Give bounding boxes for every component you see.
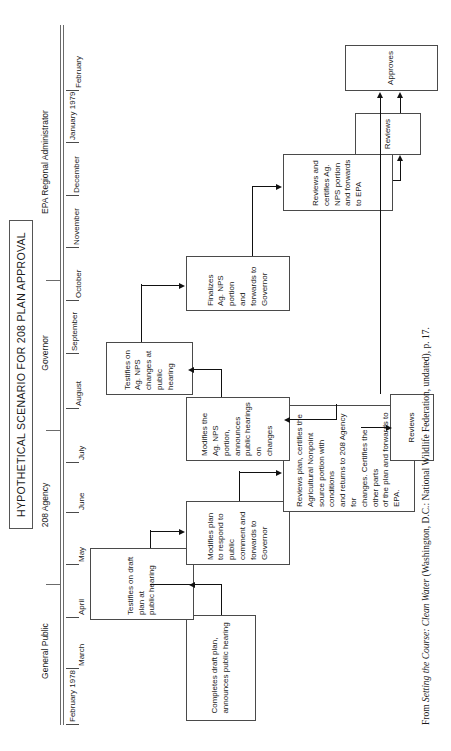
figure-title-text: HYPOTHETICAL SCENARIO FOR 208 PLAN APPRO… xyxy=(15,232,27,517)
node-modifies-plan-label: Modifies plan to respond to public comme… xyxy=(206,506,271,560)
node-modifies-ag-nps-label: Modifies the Ag. NPS portion, announces … xyxy=(200,402,276,456)
flow-modifies-to-governor-riser xyxy=(239,472,277,473)
month-label-may: May xyxy=(77,547,86,562)
source-citation: From Setting the Course: Clean Water (Wa… xyxy=(421,25,431,725)
node-testifies-ag-nps: Testifies on Ag. NPS changes at public h… xyxy=(106,342,193,395)
month-label-aug: August xyxy=(74,381,83,406)
flow-finalizes-to-gov2-riser xyxy=(252,186,278,187)
month-tick-feb-1978 xyxy=(66,724,79,725)
node-modifies-plan: Modifies plan to respond to public comme… xyxy=(186,501,290,565)
flow-modifiesag-to-testifiesag-arrow xyxy=(188,367,194,373)
flow-testifiesag-to-finalizes-riser xyxy=(141,285,181,286)
flow-epa2-to-approves-arrow xyxy=(397,92,403,98)
flow-testifies-to-modifies-arrow xyxy=(179,529,185,535)
flow-completes-to-testifies-arrow xyxy=(189,582,195,588)
flow-modifies-to-governor-arrow xyxy=(276,470,282,476)
flow-gov2-to-epa2-seg xyxy=(400,160,401,181)
node-testifies-ag-nps-label: Testifies on Ag. NPS changes at public h… xyxy=(123,347,177,390)
month-tick-sep xyxy=(66,353,79,354)
column-separator-2 xyxy=(46,430,60,431)
month-label-jun: June xyxy=(77,493,86,510)
flow-testifies-to-modifies-riser xyxy=(150,531,180,532)
column-header-epa-regional-administrator: EPA Regional Administrator xyxy=(40,67,50,257)
month-label-mar: March xyxy=(77,644,86,666)
month-label-feb-1979: February xyxy=(74,56,83,88)
month-label-oct: October xyxy=(74,270,83,298)
header-rule-upper xyxy=(60,25,61,725)
citation-prefix: From xyxy=(421,702,431,725)
column-header-208-agency: 208 Agency xyxy=(40,445,50,565)
month-tick-jan-1979 xyxy=(66,142,79,143)
month-tick-apr xyxy=(66,617,79,618)
month-tick-feb-1979 xyxy=(66,90,79,91)
flow-finalizes-to-gov2-seg xyxy=(252,186,253,256)
month-label-apr: April xyxy=(77,599,86,615)
node-finalizes-ag-nps: Finalizes Ag. NPS portion and forwards t… xyxy=(186,256,290,311)
node-epa-reviews-1-label: Reviews xyxy=(407,412,418,442)
node-epa-reviews-2: Reviews xyxy=(355,113,421,155)
month-tick-dec xyxy=(66,195,79,196)
node-completes-draft-plan: Completes draft plan, announces public h… xyxy=(186,615,256,721)
month-tick-oct xyxy=(66,300,79,301)
node-finalizes-ag-nps-label: Finalizes Ag. NPS portion and forwards t… xyxy=(206,261,271,306)
month-label-jan-1979: January 1979 xyxy=(68,92,77,140)
month-tick-jun xyxy=(66,512,79,513)
flow-testifies-to-modifies-seg xyxy=(150,530,151,548)
month-label-sep: September xyxy=(70,312,79,351)
flow-governor-to-modifiesag-seg2 xyxy=(336,404,337,420)
month-label-jul: July xyxy=(77,446,86,460)
month-tick-jul xyxy=(66,462,79,463)
header-rule-lower xyxy=(63,25,64,725)
flow-completes-to-testifies-seg xyxy=(221,584,222,615)
month-tick-nov xyxy=(66,247,79,248)
flow-completes-to-testifies-riser xyxy=(150,584,222,585)
flow-modifiesag-to-testifiesag-riser xyxy=(193,369,222,370)
flow-governor-epa-feed-arrow xyxy=(386,425,392,431)
month-tick-aug xyxy=(66,408,79,409)
flow-modifies-to-governor-seg xyxy=(239,471,240,501)
flow-gov2-to-epa2-arrow xyxy=(397,155,403,161)
column-separator-1 xyxy=(46,584,60,585)
column-header-band: General Public 208 Agency Governor EPA R… xyxy=(40,25,60,725)
column-separator-3 xyxy=(46,280,60,281)
node-governor-reviews-certifies-2: Reviews and certifies Ag. NPS portion an… xyxy=(283,154,393,211)
flowchart-figure: HYPOTHETICAL SCENARIO FOR 208 PLAN APPRO… xyxy=(0,0,451,751)
month-tick-may xyxy=(66,564,79,565)
flow-governor-to-modifiesag-arrow xyxy=(284,417,290,423)
figure-rotation-wrapper: HYPOTHETICAL SCENARIO FOR 208 PLAN APPRO… xyxy=(0,0,451,751)
citation-suffix: (Washington, D.C.: National Wildlife Fed… xyxy=(421,327,431,579)
month-tick-mar xyxy=(66,668,79,669)
node-completes-draft-plan-label: Completes draft plan, announces public h… xyxy=(210,622,232,713)
flow-governor-to-modifiesag-riser xyxy=(290,419,337,420)
month-label-dec: December xyxy=(72,156,81,193)
column-header-governor: Governor xyxy=(40,293,50,413)
node-governor-reviews-certifies-2-label: Reviews and certifies Ag. NPS portion an… xyxy=(311,159,365,206)
flow-testifiesag-to-finalizes-seg xyxy=(141,284,142,342)
flow-epa1-to-approves-arrow xyxy=(377,92,383,98)
node-modifies-ag-nps: Modifies the Ag. NPS portion, announces … xyxy=(186,397,290,461)
flow-modifiesag-to-testifiesag-seg xyxy=(221,369,222,397)
figure-title: HYPOTHETICAL SCENARIO FOR 208 PLAN APPRO… xyxy=(9,220,33,529)
column-header-general-public: General Public xyxy=(40,591,50,711)
citation-work-title: Setting the Course: Clean Water xyxy=(421,579,431,702)
flow-epa1-to-approves-seg xyxy=(380,97,381,394)
month-label-feb-1978: February 1978 xyxy=(68,670,77,722)
month-label-nov: November xyxy=(72,208,81,245)
node-epa-reviews-2-label: Reviews xyxy=(383,119,394,149)
flow-testifiesag-to-finalizes-arrow xyxy=(179,283,185,289)
flow-epa2-to-approves-seg xyxy=(400,96,401,113)
flow-finalizes-to-gov2-arrow xyxy=(276,184,282,190)
node-epa-approves-label: Approves xyxy=(386,51,397,85)
